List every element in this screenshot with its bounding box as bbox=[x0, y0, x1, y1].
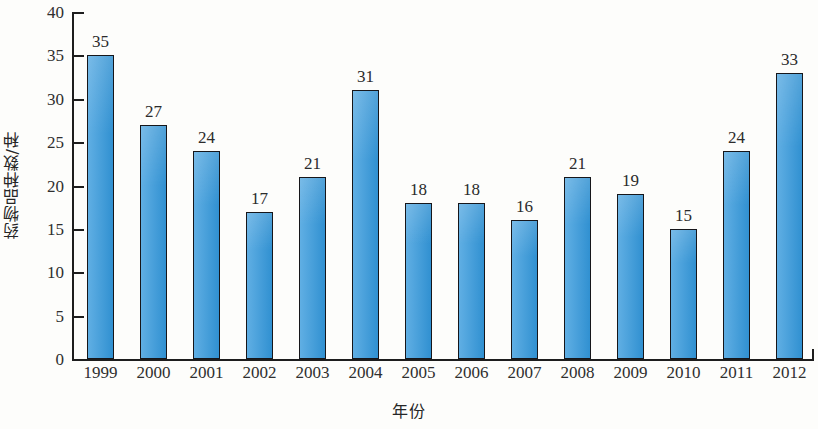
x-axis-tick-label: 2010 bbox=[667, 364, 701, 381]
bar-group: 21 bbox=[564, 11, 591, 359]
x-axis-tick-label: 2009 bbox=[614, 364, 648, 381]
y-axis-tick-mark bbox=[74, 12, 84, 14]
y-axis-tick-label: 0 bbox=[56, 351, 65, 368]
x-axis-tick-label: 2002 bbox=[243, 364, 277, 381]
bar-value-label: 24 bbox=[198, 129, 215, 146]
x-axis-tick-label: 1999 bbox=[84, 364, 118, 381]
x-axis-tick-label: 2001 bbox=[190, 364, 224, 381]
y-axis-tick-mark bbox=[74, 99, 84, 101]
x-axis-tick-label: 2012 bbox=[773, 364, 807, 381]
x-axis-tick-labels: 1999200020012002200320042005200620072008… bbox=[72, 364, 814, 392]
y-axis-tick-label: 40 bbox=[47, 4, 64, 21]
bar bbox=[87, 55, 114, 359]
y-axis-title-text: 药物品种数/种 bbox=[1, 131, 25, 239]
x-axis-tick-label: 2007 bbox=[508, 364, 542, 381]
bar bbox=[405, 203, 432, 359]
y-axis-tick-label: 5 bbox=[56, 307, 65, 324]
y-axis-tick-mark bbox=[74, 186, 84, 188]
y-axis-tick-mark bbox=[74, 55, 84, 57]
x-axis-title: 年份 bbox=[0, 398, 818, 422]
bar-value-label: 33 bbox=[781, 51, 798, 68]
bar-value-label: 16 bbox=[516, 198, 533, 215]
bar bbox=[458, 203, 485, 359]
y-axis-tick-mark bbox=[74, 359, 84, 361]
bar-value-label: 17 bbox=[251, 190, 268, 207]
bar-value-label: 15 bbox=[675, 207, 692, 224]
bar-value-label: 21 bbox=[569, 155, 586, 172]
bar bbox=[564, 177, 591, 359]
y-axis-tick-mark bbox=[74, 272, 84, 274]
bar-value-label: 18 bbox=[463, 181, 480, 198]
bar-group: 18 bbox=[405, 11, 432, 359]
bar-value-label: 27 bbox=[145, 103, 162, 120]
x-axis-tick-label: 2006 bbox=[455, 364, 489, 381]
bar-value-label: 24 bbox=[728, 129, 745, 146]
bar bbox=[246, 212, 273, 359]
bar bbox=[193, 151, 220, 359]
bar-group: 33 bbox=[776, 11, 803, 359]
bar-group: 24 bbox=[193, 11, 220, 359]
bar-value-label: 19 bbox=[622, 172, 639, 189]
bar bbox=[511, 220, 538, 359]
x-axis-tick-label: 2008 bbox=[561, 364, 595, 381]
y-axis-tick-label: 35 bbox=[47, 47, 64, 64]
bar bbox=[352, 90, 379, 359]
bar-group: 16 bbox=[511, 11, 538, 359]
bar-group: 17 bbox=[246, 11, 273, 359]
y-axis-tick-label: 10 bbox=[47, 264, 64, 281]
y-axis-tick-mark bbox=[74, 229, 84, 231]
bar bbox=[140, 125, 167, 359]
plot-area: 3527241721311818162119152433 bbox=[72, 12, 814, 360]
y-axis-title: 药物品种数/种 bbox=[0, 0, 26, 370]
bar bbox=[670, 229, 697, 359]
bar bbox=[723, 151, 750, 359]
x-axis-tick-label: 2000 bbox=[137, 364, 171, 381]
y-axis-tick-label: 20 bbox=[47, 177, 64, 194]
bar-group: 18 bbox=[458, 11, 485, 359]
bar-value-label: 35 bbox=[92, 33, 109, 50]
bar-group: 31 bbox=[352, 11, 379, 359]
bar-group: 21 bbox=[299, 11, 326, 359]
bar-group: 35 bbox=[87, 11, 114, 359]
x-axis-tick-label: 2005 bbox=[402, 364, 436, 381]
bar-value-label: 21 bbox=[304, 155, 321, 172]
bar-chart-figure: 药物品种数/种 0510152025303540 352724172131181… bbox=[0, 0, 818, 429]
y-axis-tick-labels: 0510152025303540 bbox=[26, 0, 70, 375]
bar-series: 3527241721311818162119152433 bbox=[72, 12, 814, 360]
bar-group: 15 bbox=[670, 11, 697, 359]
y-axis-tick-mark bbox=[74, 316, 84, 318]
bar bbox=[617, 194, 644, 359]
x-axis-tick-label: 2004 bbox=[349, 364, 383, 381]
y-axis-tick-mark bbox=[74, 142, 84, 144]
bar-value-label: 31 bbox=[357, 68, 374, 85]
bar bbox=[299, 177, 326, 359]
bar-group: 27 bbox=[140, 11, 167, 359]
bar-group: 24 bbox=[723, 11, 750, 359]
bar-value-label: 18 bbox=[410, 181, 427, 198]
x-axis-tick-label: 2011 bbox=[720, 364, 753, 381]
y-axis-tick-label: 30 bbox=[47, 90, 64, 107]
x-axis-tick-label: 2003 bbox=[296, 364, 330, 381]
bar bbox=[776, 73, 803, 359]
y-axis-tick-label: 15 bbox=[47, 220, 64, 237]
bar-group: 19 bbox=[617, 11, 644, 359]
y-axis-tick-label: 25 bbox=[47, 134, 64, 151]
